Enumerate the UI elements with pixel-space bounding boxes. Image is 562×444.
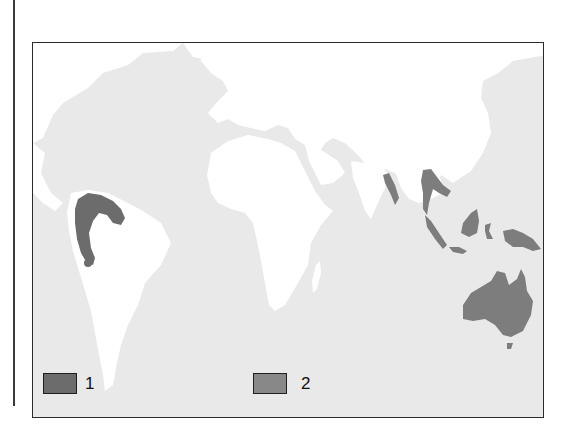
legend-swatch-2	[253, 373, 287, 394]
legend-item-2: 2	[253, 373, 310, 394]
madagascar-land	[312, 261, 321, 293]
north-america-land-2	[33, 143, 63, 211]
map-svg	[33, 43, 544, 418]
north-america-land	[33, 43, 183, 143]
legend-label-1: 1	[85, 375, 94, 392]
region-category-2-sumatra	[425, 215, 447, 249]
legend-swatch-1	[43, 373, 77, 394]
legend-label-2: 2	[301, 375, 310, 392]
region-category-2-myanmar	[383, 173, 399, 205]
region-category-2-australia	[463, 269, 533, 337]
legend-item-1: 1	[43, 373, 94, 394]
arabia-land	[305, 145, 345, 185]
region-category-2-tasmania	[507, 343, 513, 349]
india-land	[351, 161, 388, 219]
region-category-2-sulawesi	[485, 223, 493, 239]
page-margin-rule	[13, 0, 15, 406]
world-map: 1 2	[32, 42, 544, 418]
region-category-1-peru-dot	[84, 259, 92, 267]
region-category-2-java	[449, 247, 467, 254]
region-category-2-borneo	[461, 209, 479, 237]
region-category-2-new-guinea	[503, 229, 541, 251]
